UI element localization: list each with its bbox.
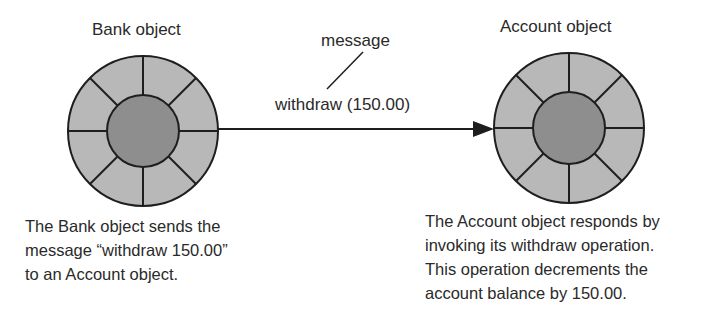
caption-line: message “withdraw 150.00” — [25, 238, 228, 262]
account-object-icon — [494, 53, 644, 203]
caption-line: invoking its withdraw operation. — [425, 233, 660, 257]
bank-object-icon — [68, 56, 218, 206]
message-arrow-label: withdraw (150.00) — [275, 95, 410, 115]
caption-line: The Bank object sends the — [25, 214, 228, 238]
account-object-caption: The Account object responds by invoking … — [425, 209, 660, 305]
message-callout-label: message — [321, 31, 390, 51]
bank-object-caption: The Bank object sends the message “withd… — [25, 214, 228, 286]
account-object-title: Account object — [500, 17, 612, 37]
bank-object-title: Bank object — [92, 20, 181, 40]
caption-line: The Account object responds by — [425, 209, 660, 233]
message-callout-line — [327, 52, 363, 89]
caption-line: This operation decrements the — [425, 257, 660, 281]
message-arrow — [218, 121, 494, 137]
caption-line: account balance by 150.00. — [425, 281, 660, 305]
caption-line: to an Account object. — [25, 262, 228, 286]
